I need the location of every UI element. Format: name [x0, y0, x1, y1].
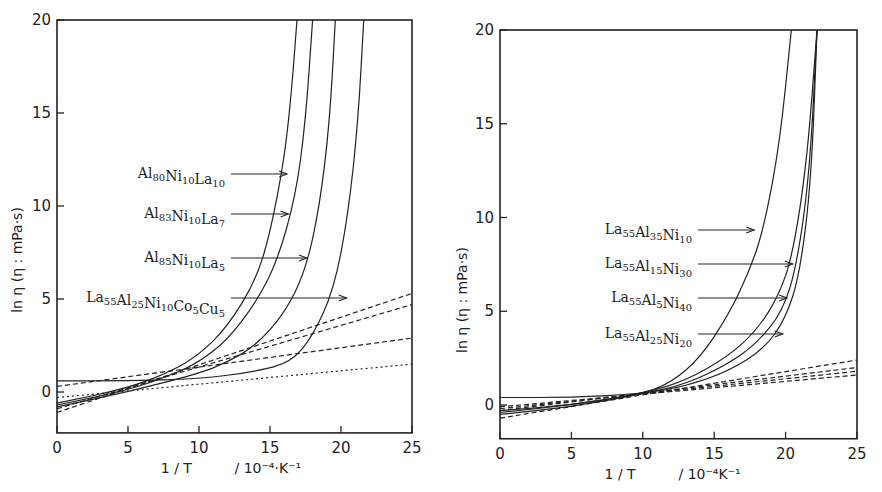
y-tick-label: 5	[41, 290, 51, 308]
series-annotation-label: Al85Ni10La5	[143, 249, 225, 273]
x-tick-label: 15	[705, 445, 724, 463]
series-line: Al85Ni10La5	[57, 20, 335, 407]
x-tick-label: 15	[260, 439, 279, 457]
series-line: Arrhenius fit 4	[500, 375, 857, 407]
series-annotation-label: Al83Ni10La7	[143, 205, 225, 229]
y-tick-label: 5	[484, 302, 494, 320]
x-tick-label: 20	[776, 445, 795, 463]
x-axis-title: 1 / T	[605, 466, 637, 482]
x-axis-title: 1 / T	[161, 460, 193, 476]
y-axis-title: ln η (η : mPa·s)	[454, 247, 470, 353]
left-chart-alloys-al-ni-la: 0510152025051015201 / T/ 10⁻⁴·K⁻¹ln η (η…	[9, 11, 422, 476]
series-annotation-label: La55Al35Ni10	[605, 221, 692, 245]
series-line: Arrhenius fit 1	[57, 293, 412, 412]
y-tick-label: 15	[475, 115, 494, 133]
y-tick-label: 20	[32, 11, 51, 29]
series-annotation-label: La55Al15Ni30	[605, 255, 692, 279]
series-line: La55Al5Ni40	[500, 30, 817, 414]
x-axis-unit: / 10⁻⁴·K⁻¹	[235, 460, 302, 476]
x-tick-label: 5	[567, 445, 577, 463]
plot-frame	[57, 20, 412, 433]
right-chart-alloys-la-al-ni: 0510152025051015201 / T/ 10⁻⁴K⁻¹ln η (η …	[454, 21, 867, 482]
x-tick-label: 5	[123, 439, 133, 457]
y-axis-title: ln η (η : mPa·s)	[9, 207, 25, 313]
y-tick-label: 10	[475, 209, 494, 227]
x-tick-label: 10	[633, 445, 652, 463]
y-tick-label: 0	[41, 383, 51, 401]
series-line: Arrhenius fit 3	[57, 338, 412, 386]
y-tick-label: 10	[32, 197, 51, 215]
series-annotation-label: Al80Ni10La10	[137, 165, 225, 189]
x-tick-label: 25	[847, 445, 866, 463]
series-annotation-label: La55Al25Ni10Co5Cu5	[86, 289, 225, 319]
series-line: La55Al15Ni30	[500, 30, 817, 413]
x-axis-unit: / 10⁻⁴K⁻¹	[679, 466, 741, 482]
x-tick-label: 0	[495, 445, 505, 463]
series-line: Arrhenius fit 2	[500, 368, 857, 411]
series-annotation-label: La55Al5Ni40	[611, 289, 692, 313]
viscosity-charts: 0510152025051015201 / T/ 10⁻⁴·K⁻¹ln η (η…	[0, 0, 882, 492]
y-tick-label: 0	[484, 396, 494, 414]
y-tick-label: 15	[32, 104, 51, 122]
y-tick-label: 20	[475, 21, 494, 39]
series-line: La55Al35Ni10	[500, 30, 791, 411]
x-tick-label: 10	[189, 439, 208, 457]
x-tick-label: 20	[331, 439, 350, 457]
x-tick-label: 0	[52, 439, 62, 457]
series-line: La55Al25Ni10Co5Cu5	[57, 20, 364, 381]
x-tick-label: 25	[402, 439, 421, 457]
series-annotation-label: La55Al25Ni20	[605, 325, 692, 349]
series-line: Arrhenius fit 3	[500, 371, 857, 409]
